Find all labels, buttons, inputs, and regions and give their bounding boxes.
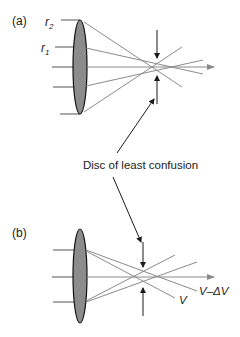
v-label: V — [179, 294, 188, 306]
panel-b-label: (b) — [12, 226, 27, 240]
panel-b: (b) V V–ΔV — [12, 226, 230, 323]
panel-a-label: (a) — [12, 14, 27, 28]
r1-label: r1 — [41, 41, 49, 57]
panel-a: (a) r2 r1 — [12, 14, 214, 114]
lens-b — [73, 229, 87, 323]
lens-a — [73, 20, 87, 114]
leader-arrow-b — [113, 177, 141, 242]
aberration-diagram: (a) r2 r1 Disc of least confusion — [0, 0, 240, 337]
r2-label: r2 — [45, 15, 54, 31]
disc-annotation: Disc of least confusion — [83, 99, 198, 242]
leader-arrow-a — [117, 99, 154, 153]
disc-of-least-confusion-label: Disc of least confusion — [83, 159, 198, 171]
v-minus-delta-v-label: V–ΔV — [199, 285, 230, 297]
